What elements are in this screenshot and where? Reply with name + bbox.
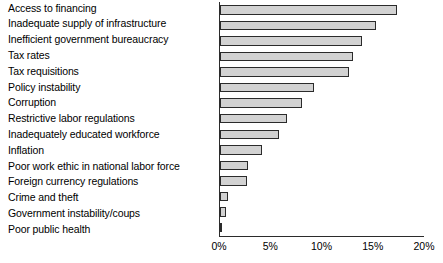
bar-row bbox=[220, 158, 424, 174]
category-label: Inadequately educated workforce bbox=[0, 126, 214, 142]
bar bbox=[220, 145, 262, 155]
bar bbox=[220, 98, 302, 108]
category-label: Poor public health bbox=[0, 221, 214, 237]
category-label: Inflation bbox=[0, 142, 214, 158]
category-label: Crime and theft bbox=[0, 190, 214, 206]
category-label: Corruption bbox=[0, 95, 214, 111]
bar bbox=[220, 207, 226, 217]
category-label: Policy instability bbox=[0, 79, 214, 95]
bar-row bbox=[220, 173, 424, 189]
category-label-column: Access to financing Inadequate supply of… bbox=[0, 0, 214, 237]
bar-row bbox=[220, 111, 424, 127]
bar bbox=[220, 52, 353, 62]
x-axis-tick-labels: 0% 5% 10% 15% 20% bbox=[219, 240, 424, 260]
x-tick-label: 10% bbox=[311, 240, 332, 252]
bar bbox=[220, 67, 349, 77]
x-tick-label: 15% bbox=[362, 240, 383, 252]
bar-row bbox=[220, 2, 424, 18]
category-label: Tax requisitions bbox=[0, 63, 214, 79]
bar-row bbox=[220, 18, 424, 34]
bar bbox=[220, 36, 362, 46]
bar bbox=[220, 223, 222, 233]
x-tick-label: 5% bbox=[263, 240, 278, 252]
x-tick-label: 0% bbox=[211, 240, 226, 252]
bar-row bbox=[220, 127, 424, 143]
bar-row bbox=[220, 80, 424, 96]
bar-row bbox=[220, 204, 424, 220]
category-label: Restrictive labor regulations bbox=[0, 111, 214, 127]
bar bbox=[220, 161, 248, 171]
bar-series bbox=[220, 2, 424, 236]
bar bbox=[220, 5, 397, 15]
bar-row bbox=[220, 189, 424, 205]
bar-row bbox=[220, 95, 424, 111]
category-label: Government instability/coups bbox=[0, 205, 214, 221]
bar-row bbox=[220, 142, 424, 158]
x-tick-label: 20% bbox=[413, 240, 434, 252]
category-label: Poor work ethic in national labor force bbox=[0, 158, 214, 174]
bar bbox=[220, 114, 287, 124]
bar-row bbox=[220, 220, 424, 236]
bar-row bbox=[220, 33, 424, 49]
bar-row bbox=[220, 49, 424, 65]
bar bbox=[220, 192, 228, 202]
bar-row bbox=[220, 64, 424, 80]
bar bbox=[220, 130, 279, 140]
bar-chart: Access to financing Inadequate supply of… bbox=[0, 0, 443, 263]
bar bbox=[220, 176, 247, 186]
bar bbox=[220, 83, 314, 93]
category-label: Inadequate supply of infrastructure bbox=[0, 16, 214, 32]
category-label: Inefficient government bureaucracy bbox=[0, 32, 214, 48]
bar bbox=[220, 21, 376, 31]
category-label: Foreign currency regulations bbox=[0, 174, 214, 190]
plot-area bbox=[219, 2, 424, 237]
category-label: Access to financing bbox=[0, 0, 214, 16]
category-label: Tax rates bbox=[0, 47, 214, 63]
